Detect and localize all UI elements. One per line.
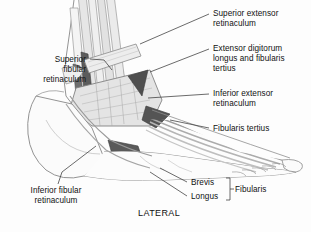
label-superior-fibular-retinaculum: Superior fibular retinaculum xyxy=(12,55,86,86)
anatomical-figure: Superior fibular retinaculum Inferior fi… xyxy=(0,0,311,232)
malleolus-outline xyxy=(36,91,64,96)
label-fibularis-group: Fibularis xyxy=(235,185,285,195)
label-fibularis-brevis: Brevis xyxy=(191,178,227,188)
fibularis-bracket xyxy=(226,178,234,200)
leader-extensor-digitorum xyxy=(150,49,209,72)
leader-superior-extensor xyxy=(140,14,209,44)
label-inferior-fibular-retinaculum: Inferior fibular retinaculum xyxy=(10,186,102,206)
label-fibularis-tertius: Fibularis tertius xyxy=(213,124,309,134)
label-superior-extensor-retinaculum: Superior extensor retinaculum xyxy=(213,9,309,29)
label-lateral-orientation: LATERAL xyxy=(138,208,198,218)
label-extensor-digitorum-longus-and-fibularis-tertius: Extensor digitorum longus and fibularis … xyxy=(213,44,309,75)
label-fibularis-longus: Longus xyxy=(191,192,227,202)
label-inferior-extensor-retinaculum: Inferior extensor retinaculum xyxy=(213,89,309,109)
